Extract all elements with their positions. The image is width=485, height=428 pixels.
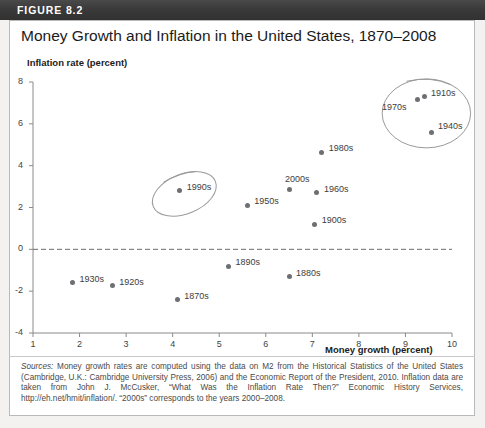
x-tick-label: 5: [209, 339, 229, 349]
y-tick-label: 4: [3, 160, 23, 170]
x-tick-label: 8: [349, 339, 369, 349]
data-point-label: 1970s: [382, 102, 407, 112]
source-note: Sources: Money growth rates are computed…: [21, 362, 463, 405]
x-tick-label: 10: [442, 339, 462, 349]
data-point: [287, 187, 292, 192]
x-tick-label: 4: [163, 339, 183, 349]
data-point-label: 1870s: [184, 291, 209, 301]
data-point-label: 1990s: [187, 182, 212, 192]
data-point: [429, 130, 434, 135]
data-point: [415, 97, 420, 102]
data-point-label: 1920s: [119, 277, 144, 287]
y-tick-label: 6: [3, 118, 23, 128]
data-point: [175, 297, 180, 302]
data-point: [226, 264, 231, 269]
data-point-label: 1890s: [236, 257, 261, 267]
data-point: [422, 94, 427, 99]
y-tick-label: -2: [3, 285, 23, 295]
x-tick-label: 6: [256, 339, 276, 349]
y-tick-label: 2: [3, 202, 23, 212]
x-tick-label: 7: [302, 339, 322, 349]
y-tick-label: 0: [3, 243, 23, 253]
x-tick-label: 1: [23, 339, 43, 349]
data-point: [319, 150, 324, 155]
data-point-label: 1960s: [324, 184, 349, 194]
data-point: [245, 203, 250, 208]
data-point: [312, 222, 317, 227]
scatter-plot: Inflation rate (percent) Money growth (p…: [0, 0, 485, 360]
data-point-label: 1910s: [431, 88, 456, 98]
x-tick-label: 2: [70, 339, 90, 349]
data-point-label: 1980s: [329, 143, 354, 153]
x-tick-label: 3: [116, 339, 136, 349]
source-note-lead: Sources:: [21, 362, 53, 371]
data-point-label: 1950s: [254, 196, 279, 206]
y-tick-label: -4: [3, 327, 23, 337]
data-point-label: 1880s: [296, 268, 321, 278]
source-note-text: Money growth rates are computed using th…: [21, 362, 463, 403]
data-point-label: 1900s: [322, 215, 347, 225]
data-point-label: 2000s: [285, 174, 310, 184]
x-tick-label: 9: [395, 339, 415, 349]
data-point: [287, 274, 292, 279]
figure-container: FIGURE 8.2 Money Growth and Inflation in…: [0, 0, 485, 428]
x-axis-title: Money growth (percent): [325, 344, 433, 355]
data-point-label: 1940s: [438, 121, 463, 131]
y-tick-label: 8: [3, 76, 23, 86]
plot-axes-svg: [0, 0, 485, 360]
y-axis-title: Inflation rate (percent): [27, 57, 127, 68]
data-point-label: 1930s: [80, 274, 105, 284]
